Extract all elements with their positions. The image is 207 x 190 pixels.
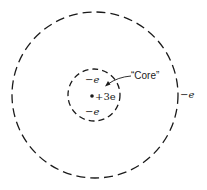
core-electron-top-label: −e [85, 74, 99, 85]
nucleus-dot [90, 94, 94, 98]
core-annotation-label: “Core” [131, 70, 159, 81]
nucleus-charge-label: +3e [95, 91, 116, 102]
core-shell-diagram: +3e −e −e “Core” −e [0, 0, 207, 190]
core-electron-bottom-label: −e [85, 106, 99, 117]
outer-electron-label: −e [180, 89, 194, 100]
